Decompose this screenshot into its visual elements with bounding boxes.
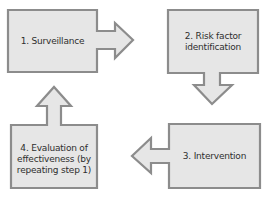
step-3-label: 3. Intervention bbox=[169, 124, 260, 188]
step-4-label: 4. Evaluation of effectiveness (by repea… bbox=[11, 131, 97, 188]
step-1-label: 1. Surveillance bbox=[8, 10, 97, 72]
step-2-label: 2. Risk factor identification bbox=[168, 10, 258, 73]
